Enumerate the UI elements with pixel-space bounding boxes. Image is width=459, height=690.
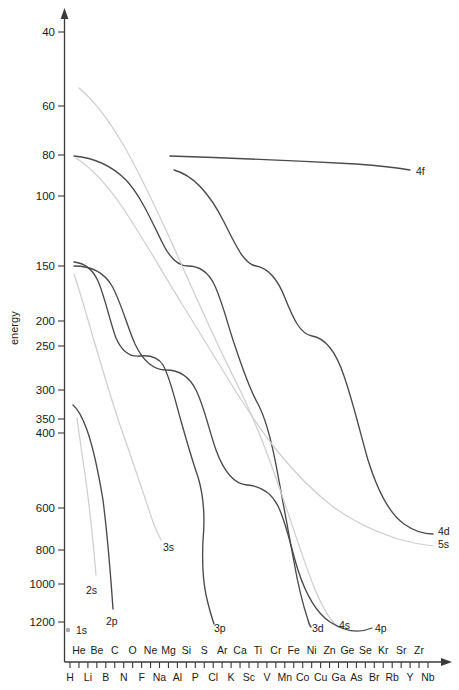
x-label-kr: Kr <box>378 644 389 656</box>
x-label-cl: Cl <box>208 671 218 683</box>
x-label-s: S <box>201 644 208 656</box>
y-axis-arrow <box>61 8 69 19</box>
x-label-ge: Ge <box>340 644 354 656</box>
x-label-rb: Rb <box>385 671 399 683</box>
x-label-na: Na <box>153 671 167 683</box>
x-label-ga: Ga <box>331 671 345 683</box>
curve-label-4d: 4d <box>438 525 450 537</box>
y-tick-label: 1000 <box>29 578 55 590</box>
chart-svg: 4060801001502002503003504006008001000120… <box>0 0 459 690</box>
y-tick-label: 600 <box>36 502 55 514</box>
x-label-mn: Mn <box>278 671 293 683</box>
curve-2s <box>77 418 96 575</box>
curve-group <box>66 88 433 632</box>
curve-4d <box>174 170 433 534</box>
x-axis-arrow <box>441 658 452 666</box>
x-label-cr: Cr <box>270 644 282 656</box>
x-label-ne: Ne <box>144 644 158 656</box>
x-label-si: Si <box>182 644 191 656</box>
x-label-ni: Ni <box>307 644 317 656</box>
x-label-c: C <box>111 644 119 656</box>
y-tick-label: 800 <box>36 544 55 556</box>
curve-label-5s: 5s <box>438 538 449 550</box>
x-label-cu: Cu <box>314 671 328 683</box>
y-tick-label: 300 <box>36 384 55 396</box>
curve-label-2p: 2p <box>106 615 118 627</box>
y-tick-label: 60 <box>42 100 55 112</box>
x-label-p: P <box>192 671 199 683</box>
y-tick-label: 150 <box>36 260 55 272</box>
y-tick-label: 1200 <box>29 616 55 628</box>
curve-label-2s: 2s <box>86 584 97 596</box>
x-label-n: N <box>120 671 128 683</box>
x-label-f: F <box>138 671 144 683</box>
x-label-he: He <box>72 644 86 656</box>
curve-label-1s: 1s <box>76 624 87 636</box>
curve-label-4p: 4p <box>375 622 387 634</box>
y-tick-label: 350 <box>36 413 55 425</box>
x-label-zn: Zn <box>323 644 335 656</box>
x-label-bottom-group: HLiBNFNaAlPClKScVMnCoCuGaAsBrRbYNb <box>66 671 435 683</box>
curve-5s <box>76 158 433 546</box>
x-label-ca: Ca <box>233 644 247 656</box>
x-label-be: Be <box>90 644 103 656</box>
x-tick-group <box>70 662 428 668</box>
x-label-o: O <box>129 644 137 656</box>
x-label-se: Se <box>359 644 372 656</box>
x-label-zr: Zr <box>414 644 424 656</box>
x-label-top-group: HeBeCONeMgSiSArCaTiCrFeNiZnGeSeKrSrZr <box>72 644 424 656</box>
y-tick-group: 4060801001502002503003504006008001000120… <box>29 26 65 628</box>
x-label-k: K <box>228 671 235 683</box>
y-tick-label: 400 <box>36 427 55 439</box>
y-tick-label: 250 <box>36 340 55 352</box>
x-label-li: Li <box>84 671 92 683</box>
curve-label-4f: 4f <box>416 165 425 177</box>
x-label-sr: Sr <box>396 644 407 656</box>
curve-label-3d: 3d <box>312 622 324 634</box>
curve-label-4s: 4s <box>339 619 350 631</box>
y-axis-title: energy <box>8 311 20 345</box>
orbital-energy-chart: 4060801001502002503003504006008001000120… <box>0 0 459 690</box>
curve-label-3s: 3s <box>163 541 174 553</box>
curve-4s <box>79 88 337 626</box>
x-label-b: B <box>102 671 109 683</box>
y-tick-label: 80 <box>42 149 55 161</box>
y-tick-label: 40 <box>42 26 55 38</box>
x-label-h: H <box>66 671 74 683</box>
x-label-y: Y <box>407 671 414 683</box>
curve-3s <box>74 274 161 540</box>
x-label-sc: Sc <box>243 671 255 683</box>
marker-1s <box>66 628 70 632</box>
y-tick-label: 200 <box>36 315 55 327</box>
x-label-al: Al <box>173 671 182 683</box>
x-label-nb: Nb <box>421 671 435 683</box>
curve-4f <box>170 156 410 170</box>
curve-4p <box>74 266 372 631</box>
x-label-br: Br <box>369 671 380 683</box>
x-label-co: Co <box>296 671 310 683</box>
x-label-ti: Ti <box>254 644 262 656</box>
x-label-fe: Fe <box>288 644 300 656</box>
x-label-mg: Mg <box>161 644 176 656</box>
curve-label-3p: 3p <box>214 622 226 634</box>
x-label-v: V <box>263 671 270 683</box>
curve-label-group: 1s2s2p3s3p3d4s4p4d5s4f <box>76 165 450 636</box>
x-label-as: As <box>350 671 362 683</box>
x-label-ar: Ar <box>217 644 228 656</box>
y-tick-label: 100 <box>36 190 55 202</box>
